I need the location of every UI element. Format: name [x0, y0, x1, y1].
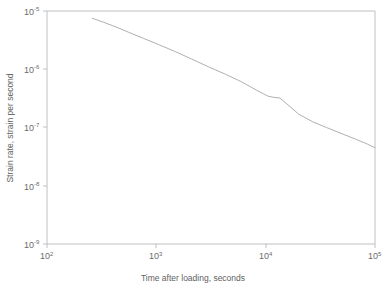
- y-tick-label: 10-7: [24, 122, 40, 133]
- x-tick-labels: 102 103 104 105: [40, 251, 382, 262]
- y-axis-title: Strain rate, strain per second: [5, 73, 15, 182]
- x-axis-title: Time after loading, seconds: [141, 273, 245, 283]
- x-tick-label: 103: [149, 251, 163, 262]
- x-tick-label: 104: [259, 251, 273, 262]
- data-series-line: [92, 18, 375, 147]
- y-tickmarks: [43, 11, 47, 244]
- y-tick-label: 10-5: [24, 6, 40, 17]
- x-tick-label: 102: [40, 251, 54, 262]
- y-tick-labels: 10-5 10-6 10-7 10-8 10-9: [24, 6, 40, 250]
- y-tick-label: 10-6: [24, 64, 40, 75]
- y-tick-label: 10-8: [24, 181, 40, 192]
- x-tickmarks: [47, 244, 375, 248]
- chart-figure: 10-5 10-6 10-7 10-8 10-9 102 103: [0, 0, 387, 289]
- y-tick-label: 10-9: [24, 239, 40, 250]
- chart-canvas: 10-5 10-6 10-7 10-8 10-9 102 103: [0, 0, 387, 289]
- x-tick-label: 105: [368, 251, 382, 262]
